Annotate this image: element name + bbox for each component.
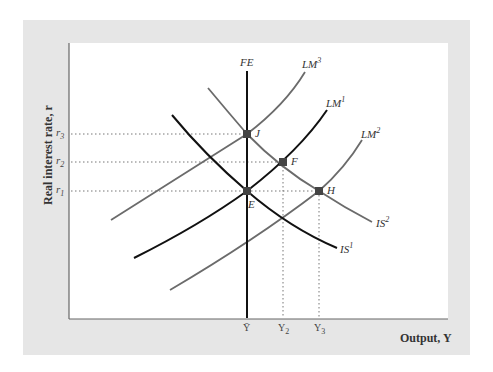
point-e [243, 187, 251, 195]
lm3-curve [111, 72, 305, 220]
x-tick-y2: Y2 [278, 322, 289, 336]
label-fe: FE [240, 56, 253, 68]
lm1-curve [134, 110, 327, 258]
lm2-curve [170, 140, 362, 290]
x-tick-ybar: Ȳ [243, 322, 250, 333]
label-point-f: F [291, 155, 298, 167]
point-f [279, 158, 287, 166]
y-tick-r1: r1 [56, 183, 64, 198]
y-tick-r2: r2 [56, 154, 64, 169]
point-h [315, 187, 323, 195]
label-point-j: J [255, 127, 260, 139]
x-tick-y3: Y3 [314, 322, 325, 336]
label-lm2: LM2 [361, 126, 380, 140]
label-is1: IS1 [340, 241, 353, 255]
label-lm3: LM3 [302, 56, 321, 70]
point-j [243, 130, 251, 138]
y-tick-r3: r3 [56, 126, 64, 141]
label-point-h: H [327, 184, 335, 196]
label-is2: IS2 [376, 215, 389, 229]
y-axis-label: Real interest rate, r [41, 105, 56, 205]
x-axis-label: Output, Y [400, 331, 452, 346]
label-lm1: LM1 [326, 95, 345, 109]
label-point-e: E [248, 198, 255, 210]
